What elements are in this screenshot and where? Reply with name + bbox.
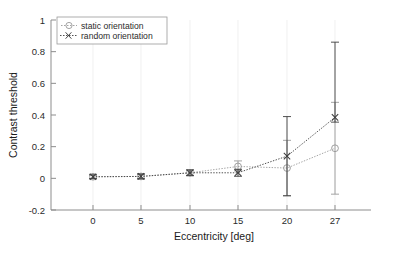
legend-label-random: random orientation: [81, 31, 153, 41]
y-tick-label-0: 1: [40, 15, 45, 26]
y-tick-label-2: 0.6: [32, 78, 45, 89]
x-tick-label-1: 5: [138, 215, 143, 226]
x-tick-label-2: 10: [185, 215, 196, 226]
legend-label-static: static orientation: [81, 21, 144, 31]
x-tick-label-3: 15: [233, 215, 244, 226]
y-tick-label-1: 0.8: [32, 46, 45, 57]
legend[interactable]: static orientation random orientation: [57, 17, 167, 44]
chart-figure: 1 0.8 0.6 0.4 0.2 0 -0.2 0 5 10 15 20 27…: [0, 0, 396, 259]
y-tick-label-4: 0.2: [32, 141, 45, 152]
y-tick-label-5: 0: [40, 173, 45, 184]
x-axis-title: Eccentricity [deg]: [174, 230, 254, 242]
x-tick-label-4: 20: [282, 215, 293, 226]
y-tick-label-6: -0.2: [29, 205, 45, 216]
x-tick-label-0: 0: [90, 215, 95, 226]
x-tick-label-5: 27: [330, 215, 341, 226]
y-tick-label-3: 0.4: [32, 110, 45, 121]
y-axis-title: Contrast threshold: [7, 72, 19, 158]
contrast-threshold-plot: 1 0.8 0.6 0.4 0.2 0 -0.2 0 5 10 15 20 27…: [0, 0, 396, 259]
